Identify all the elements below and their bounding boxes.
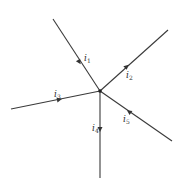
node-dot [98, 89, 102, 93]
branch-i1-line [53, 19, 100, 91]
label-i5: i5 [123, 114, 130, 125]
branch-i2-line [100, 30, 168, 91]
label-i4: i4 [92, 123, 99, 134]
label-i3: i3 [54, 89, 61, 100]
label-i1: i1 [84, 53, 91, 64]
label-i2: i2 [126, 70, 133, 81]
diagram-svg: i1 i2 i3 i4 i5 [0, 0, 182, 193]
branch-i5-line [100, 91, 172, 141]
circuit-node-diagram: i1 i2 i3 i4 i5 [0, 0, 182, 193]
